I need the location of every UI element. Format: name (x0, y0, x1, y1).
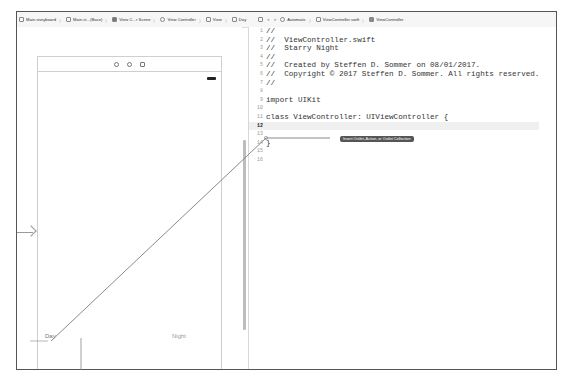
scene-icon (112, 17, 117, 22)
storyboard-canvas[interactable] (17, 27, 242, 369)
line-number: 10 (249, 104, 266, 113)
code-line[interactable]: 11class ViewController: UIViewController… (249, 113, 539, 122)
code-line[interactable]: 7// (249, 79, 539, 88)
code-line[interactable]: 5// Created by Steffen D. Sommer on 08/0… (249, 61, 539, 70)
file-icon (66, 17, 71, 22)
code-text: // (266, 53, 275, 62)
code-line[interactable]: 10 (249, 104, 539, 113)
assistant-icon (280, 17, 285, 22)
line-number: 14 (249, 139, 266, 148)
code-line[interactable]: 6// Copyright © 2017 Steffen D. Sommer. … (249, 70, 539, 79)
storyboard-icon (19, 17, 24, 22)
line-number: 11 (249, 113, 266, 122)
day-label[interactable]: Day (45, 333, 56, 339)
related-items-button[interactable] (256, 17, 265, 22)
code-line[interactable]: 16 (249, 156, 539, 165)
insert-outlet-tooltip: Insert Outlet, Action, or Outlet Collect… (340, 136, 414, 142)
grid-icon (258, 17, 263, 22)
code-text: class ViewController: UIViewController { (266, 113, 448, 122)
code-line[interactable]: 3// Starry Night (249, 44, 539, 53)
code-text: // Starry Night (266, 44, 339, 53)
code-text: import UIKit (266, 96, 321, 105)
assistant-symbol[interactable]: ViewController (367, 17, 405, 22)
line-number: 15 (249, 147, 266, 156)
code-line[interactable]: 15 (249, 147, 539, 156)
battery-icon (207, 77, 216, 80)
view-icon (206, 17, 211, 22)
line-number: 7 (249, 79, 266, 88)
assistant-file[interactable]: ViewController.swift (314, 17, 361, 22)
scene-dock (38, 57, 221, 72)
code-line[interactable]: 2// ViewController.swift (249, 36, 539, 45)
code-text: // (266, 79, 275, 88)
first-responder-icon[interactable] (127, 62, 132, 67)
line-number: 8 (249, 87, 266, 96)
jumpbar-item-view-controller[interactable]: View Controller (158, 17, 197, 22)
line-number: 4 (249, 53, 266, 62)
code-text: // ViewController.swift (266, 36, 375, 45)
jump-bar: Main.storyboard 〉 Main.st...(Base) 〉 Vie… (17, 12, 556, 28)
assistant-mode[interactable]: Automatic (278, 17, 308, 22)
code-line[interactable]: 8 (249, 87, 539, 96)
line-number: 1 (249, 27, 266, 36)
entry-arrow-head-icon (25, 225, 36, 236)
xcode-window: Main.storyboard 〉 Main.st...(Base) 〉 Vie… (16, 11, 557, 370)
jumpbar-item-day[interactable]: Day (230, 17, 248, 22)
code-line[interactable]: 9import UIKit (249, 96, 539, 105)
view-controller-scene[interactable] (37, 56, 222, 370)
code-line[interactable]: 1// (249, 27, 539, 36)
code-text: // Created by Steffen D. Sommer on 08/01… (266, 61, 480, 70)
line-number: 16 (249, 156, 266, 165)
canvas-scrollbar[interactable] (243, 140, 246, 330)
jumpbar-item-storyboard[interactable]: Main.storyboard (17, 17, 58, 22)
line-number: 6 (249, 70, 266, 79)
assistant-editor[interactable]: 1//2// ViewController.swift3// Starry Ni… (249, 27, 556, 369)
line-number: 9 (249, 96, 266, 105)
line-number: 2 (249, 36, 266, 45)
view-controller-icon[interactable] (114, 62, 119, 67)
night-label[interactable]: Night (172, 333, 186, 339)
class-icon (369, 17, 374, 22)
line-number: 12 (249, 122, 266, 131)
jumpbar-item-base[interactable]: Main.st...(Base) (64, 17, 104, 22)
line-number: 13 (249, 130, 266, 139)
view-controller-icon (160, 17, 165, 22)
label-icon (232, 17, 237, 22)
jumpbar-item-scene[interactable]: View C...r Scene (110, 17, 152, 22)
jumpbar-item-view[interactable]: View (204, 17, 224, 22)
code-view[interactable]: 1//2// ViewController.swift3// Starry Ni… (249, 27, 539, 165)
line-number: 5 (249, 61, 266, 70)
exit-icon[interactable] (140, 62, 145, 67)
code-text: // Copyright © 2017 Steffen D. Sommer. A… (266, 70, 539, 79)
code-text: } (266, 139, 271, 148)
code-line[interactable]: 12 (249, 122, 539, 131)
line-number: 3 (249, 44, 266, 53)
swift-file-icon (316, 17, 321, 22)
code-line[interactable]: 4// (249, 53, 539, 62)
code-text: // (266, 27, 275, 36)
